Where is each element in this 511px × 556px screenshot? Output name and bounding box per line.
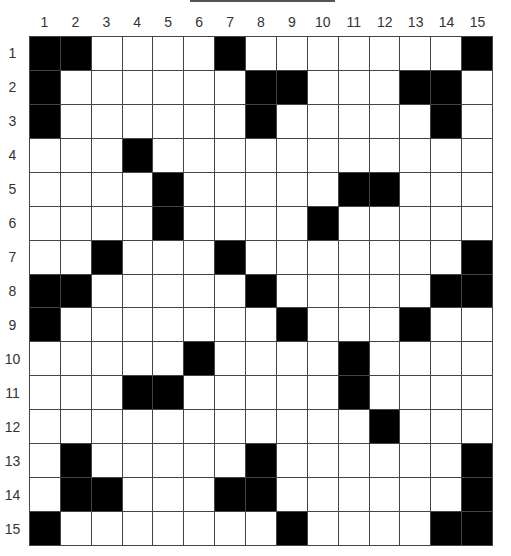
white-cell[interactable] — [370, 308, 400, 341]
white-cell[interactable] — [431, 173, 461, 206]
white-cell[interactable] — [308, 376, 338, 409]
white-cell[interactable] — [246, 376, 276, 409]
white-cell[interactable] — [123, 342, 153, 375]
white-cell[interactable] — [277, 478, 307, 511]
white-cell[interactable] — [153, 410, 183, 443]
white-cell[interactable] — [462, 173, 492, 206]
white-cell[interactable] — [400, 376, 430, 409]
white-cell[interactable] — [431, 342, 461, 375]
white-cell[interactable] — [153, 139, 183, 172]
white-cell[interactable] — [370, 139, 400, 172]
white-cell[interactable] — [400, 139, 430, 172]
white-cell[interactable] — [153, 105, 183, 138]
white-cell[interactable] — [400, 173, 430, 206]
white-cell[interactable] — [339, 478, 369, 511]
white-cell[interactable] — [308, 444, 338, 477]
white-cell[interactable] — [123, 241, 153, 274]
white-cell[interactable] — [339, 139, 369, 172]
white-cell[interactable] — [153, 478, 183, 511]
white-cell[interactable] — [308, 478, 338, 511]
white-cell[interactable] — [277, 410, 307, 443]
white-cell[interactable] — [153, 275, 183, 308]
white-cell[interactable] — [92, 37, 122, 70]
white-cell[interactable] — [462, 207, 492, 240]
white-cell[interactable] — [30, 478, 60, 511]
white-cell[interactable] — [30, 376, 60, 409]
white-cell[interactable] — [184, 71, 214, 104]
white-cell[interactable] — [277, 342, 307, 375]
white-cell[interactable] — [246, 410, 276, 443]
white-cell[interactable] — [184, 512, 214, 545]
white-cell[interactable] — [184, 308, 214, 341]
white-cell[interactable] — [339, 37, 369, 70]
white-cell[interactable] — [308, 275, 338, 308]
white-cell[interactable] — [215, 275, 245, 308]
white-cell[interactable] — [431, 241, 461, 274]
white-cell[interactable] — [339, 105, 369, 138]
white-cell[interactable] — [246, 139, 276, 172]
white-cell[interactable] — [400, 37, 430, 70]
white-cell[interactable] — [370, 105, 400, 138]
white-cell[interactable] — [92, 512, 122, 545]
white-cell[interactable] — [308, 105, 338, 138]
white-cell[interactable] — [215, 207, 245, 240]
white-cell[interactable] — [215, 512, 245, 545]
white-cell[interactable] — [431, 37, 461, 70]
white-cell[interactable] — [308, 37, 338, 70]
white-cell[interactable] — [308, 241, 338, 274]
white-cell[interactable] — [30, 207, 60, 240]
white-cell[interactable] — [246, 241, 276, 274]
white-cell[interactable] — [184, 275, 214, 308]
white-cell[interactable] — [370, 207, 400, 240]
white-cell[interactable] — [30, 410, 60, 443]
white-cell[interactable] — [308, 410, 338, 443]
white-cell[interactable] — [431, 376, 461, 409]
white-cell[interactable] — [123, 512, 153, 545]
white-cell[interactable] — [370, 37, 400, 70]
white-cell[interactable] — [215, 410, 245, 443]
white-cell[interactable] — [370, 342, 400, 375]
white-cell[interactable] — [61, 241, 91, 274]
white-cell[interactable] — [400, 207, 430, 240]
white-cell[interactable] — [92, 173, 122, 206]
white-cell[interactable] — [153, 71, 183, 104]
white-cell[interactable] — [215, 376, 245, 409]
white-cell[interactable] — [339, 512, 369, 545]
white-cell[interactable] — [339, 207, 369, 240]
white-cell[interactable] — [431, 207, 461, 240]
white-cell[interactable] — [184, 376, 214, 409]
white-cell[interactable] — [339, 241, 369, 274]
white-cell[interactable] — [277, 139, 307, 172]
white-cell[interactable] — [462, 410, 492, 443]
white-cell[interactable] — [123, 478, 153, 511]
white-cell[interactable] — [123, 308, 153, 341]
white-cell[interactable] — [92, 410, 122, 443]
white-cell[interactable] — [400, 342, 430, 375]
white-cell[interactable] — [153, 37, 183, 70]
white-cell[interactable] — [277, 207, 307, 240]
white-cell[interactable] — [30, 173, 60, 206]
white-cell[interactable] — [370, 275, 400, 308]
white-cell[interactable] — [92, 444, 122, 477]
white-cell[interactable] — [339, 410, 369, 443]
white-cell[interactable] — [184, 105, 214, 138]
white-cell[interactable] — [308, 342, 338, 375]
white-cell[interactable] — [277, 37, 307, 70]
white-cell[interactable] — [400, 512, 430, 545]
white-cell[interactable] — [92, 308, 122, 341]
white-cell[interactable] — [123, 207, 153, 240]
white-cell[interactable] — [215, 71, 245, 104]
white-cell[interactable] — [92, 275, 122, 308]
white-cell[interactable] — [184, 241, 214, 274]
white-cell[interactable] — [61, 512, 91, 545]
white-cell[interactable] — [431, 139, 461, 172]
white-cell[interactable] — [277, 105, 307, 138]
white-cell[interactable] — [215, 444, 245, 477]
white-cell[interactable] — [339, 444, 369, 477]
white-cell[interactable] — [30, 241, 60, 274]
white-cell[interactable] — [308, 71, 338, 104]
white-cell[interactable] — [308, 512, 338, 545]
white-cell[interactable] — [92, 139, 122, 172]
white-cell[interactable] — [400, 241, 430, 274]
white-cell[interactable] — [92, 71, 122, 104]
